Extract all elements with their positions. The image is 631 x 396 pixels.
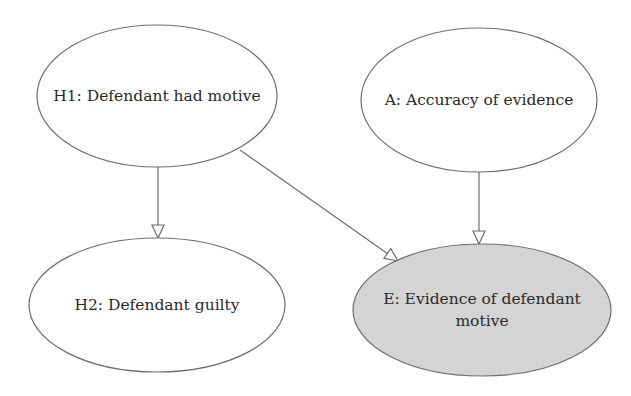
edge-a-to-e: [473, 172, 485, 244]
node-a: A: Accuracy of evidence: [361, 28, 597, 172]
node-label: H2: Defendant guilty: [74, 296, 239, 314]
node-label: H1: Defendant had motive: [53, 87, 261, 105]
arrowhead-icon: [384, 249, 398, 261]
node-label: A: Accuracy of evidence: [384, 91, 574, 109]
node-h1: H1: Defendant had motive: [37, 25, 277, 167]
node-label: E: Evidence of defendant: [383, 290, 581, 308]
node-e: E: Evidence of defendantmotive: [353, 244, 611, 376]
node-ellipse: [353, 244, 611, 376]
edge-h1-to-e: [240, 150, 398, 261]
edge-line: [240, 150, 387, 254]
bayesian-network-diagram: H1: Defendant had motiveA: Accuracy of e…: [0, 0, 631, 396]
node-h2: H2: Defendant guilty: [29, 238, 285, 372]
arrowhead-icon: [152, 225, 164, 238]
nodes-layer: H1: Defendant had motiveA: Accuracy of e…: [29, 25, 611, 376]
node-label: motive: [455, 312, 508, 330]
arrowhead-icon: [473, 231, 485, 244]
edge-h1-to-h2: [152, 167, 164, 238]
